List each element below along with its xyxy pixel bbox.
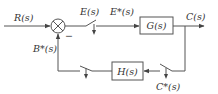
label-input-r: R(s): [13, 12, 34, 23]
feedback-block-label: H(s): [116, 66, 138, 77]
sampler-switch-feedback: [80, 66, 92, 79]
sampler-switch-error: [86, 20, 96, 35]
label-sampled-output: C*(s): [156, 81, 181, 92]
sampler-switch-output: [160, 64, 172, 79]
feedback-block-h: H(s): [112, 62, 143, 80]
minus-sign: −: [65, 30, 73, 41]
label-error-e: E(s): [79, 6, 100, 17]
block-diagram: R(s) − E(s) E*(s) G(s) C(s) C*(s) H(s): [0, 0, 218, 94]
label-sampled-error: E*(s): [109, 6, 134, 17]
forward-block-label: G(s): [147, 20, 167, 31]
label-sampled-feedback: B*(s): [32, 43, 57, 54]
label-output-c: C(s): [186, 11, 206, 22]
forward-block-g: G(s): [140, 17, 173, 34]
summing-junction: [51, 19, 65, 33]
